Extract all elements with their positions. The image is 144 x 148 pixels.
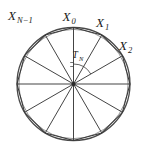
vertex-label-x2-subscript: 2 (128, 45, 133, 55)
vertex-label-x1-base: X (95, 15, 105, 30)
vertex-label-xnm1-subscript: N−1 (16, 15, 33, 25)
spoke-4 (74, 84, 123, 112)
spoke-5 (74, 84, 102, 133)
polygon-circle-figure: X 0 X 1 X 2 X N−1 T N (0, 0, 144, 148)
central-angle-label-base: T (73, 50, 79, 60)
vertex-label-x2-base: X (118, 38, 128, 53)
central-angle-label-subscript: N (78, 55, 84, 62)
center-point (71, 82, 75, 86)
vertex-label-xnm1-base: X (7, 8, 17, 23)
spoke-8 (25, 84, 74, 112)
spoke-7 (45, 84, 73, 133)
spoke-10 (25, 56, 74, 84)
vertex-label-x1-subscript: 1 (105, 22, 109, 32)
spoke-11 (45, 35, 73, 84)
vertex-label-x0-subscript: 0 (72, 16, 77, 26)
vertex-label-x0-base: X (62, 9, 72, 24)
figure-canvas: X 0 X 1 X 2 X N−1 T N (0, 0, 144, 148)
